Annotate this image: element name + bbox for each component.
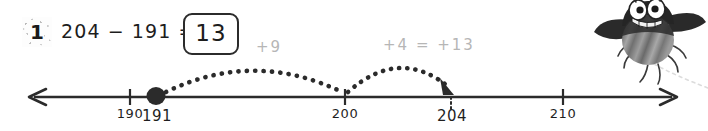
bug-pupil-left — [636, 6, 643, 13]
start-point-dot-191 — [147, 87, 166, 105]
tick-label-200: 200 — [332, 106, 358, 121]
bug-leg-6 — [658, 64, 660, 84]
jump-arc-first — [166, 71, 344, 93]
tick-label-191: 191 — [142, 107, 172, 125]
bug-leg-4 — [666, 54, 678, 72]
bug-pupil-right — [651, 5, 658, 12]
worksheet-problem-row: 1 204 − 191 = 13 +9 +4 = +13 190 191 2 — [0, 0, 708, 131]
tick-label-204: 204 — [437, 107, 467, 125]
jump-arc-second — [348, 68, 450, 92]
bug-leg-5 — [640, 64, 648, 82]
tick-label-210: 210 — [550, 106, 576, 121]
tick-label-190: 190 — [117, 106, 143, 121]
cartoon-bug-icon — [592, 0, 708, 90]
jump-arrowhead-icon — [440, 78, 454, 95]
flight-trail — [654, 64, 708, 88]
